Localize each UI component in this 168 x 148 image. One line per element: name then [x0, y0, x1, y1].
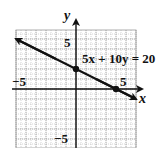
coordinate-plane: y x 5 −5 −5 5 5x + 10y = 20: [0, 0, 168, 148]
intercept-point: [73, 66, 79, 72]
x-neg-tick-label: −5: [12, 74, 26, 89]
y-pos-tick-label: 5: [64, 35, 71, 50]
y-neg-tick-label: −5: [54, 131, 68, 146]
x-pos-tick-label: 5: [120, 74, 127, 89]
equation-label: 5x + 10y = 20: [82, 51, 155, 66]
y-axis-label: y: [62, 8, 71, 23]
labels: y x 5 −5 −5 5 5x + 10y = 20: [12, 8, 155, 146]
intercept-point: [113, 86, 119, 92]
x-axis-label: x: [138, 91, 146, 106]
equation-text: 5x + 10y = 20: [82, 51, 155, 66]
